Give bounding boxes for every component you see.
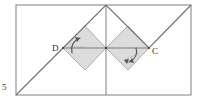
figure-canvas: D C 5 xyxy=(0,0,200,102)
vertex-point-center xyxy=(105,47,107,49)
label-c: C xyxy=(152,46,158,56)
geometry-figure: D C 5 xyxy=(0,0,200,102)
vertex-point-d xyxy=(62,47,64,49)
vertex-point-c xyxy=(148,47,150,49)
page-number: 5 xyxy=(2,82,7,92)
label-d: D xyxy=(52,43,59,53)
